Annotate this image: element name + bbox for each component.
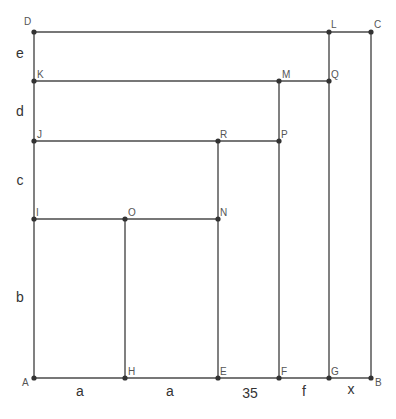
geometry-diagram: ADCBHEFGLKMQJRPION aa35fxedcb: [0, 0, 396, 419]
point-label-e: E: [220, 366, 227, 377]
point-d: [31, 29, 36, 34]
points-layer: [31, 29, 373, 380]
point-j: [31, 138, 36, 143]
length-label: e: [16, 45, 24, 61]
point-label-d: D: [24, 16, 31, 27]
point-label-q: Q: [331, 69, 339, 80]
length-label: f: [302, 383, 306, 399]
segments-layer: [34, 32, 371, 378]
point-b: [368, 375, 373, 380]
point-a: [31, 375, 36, 380]
point-h: [122, 375, 127, 380]
point-label-c: C: [374, 19, 381, 30]
point-label-r: R: [220, 129, 227, 140]
point-l: [326, 29, 331, 34]
segment-labels-layer: aa35fxedcb: [16, 45, 354, 401]
point-label-i: I: [36, 207, 39, 218]
point-label-k: K: [37, 69, 44, 80]
length-label: x: [348, 381, 355, 397]
point-label-h: H: [128, 366, 135, 377]
point-label-m: M: [282, 69, 290, 80]
point-o: [122, 216, 127, 221]
point-label-b: B: [375, 377, 382, 388]
length-label: a: [166, 383, 174, 399]
point-label-a: A: [22, 377, 29, 388]
point-label-o: O: [128, 207, 136, 218]
point-m: [276, 78, 281, 83]
length-label: b: [16, 289, 24, 305]
length-label: c: [17, 172, 24, 188]
length-label: a: [76, 383, 84, 399]
point-label-f: F: [281, 366, 287, 377]
point-c: [368, 29, 373, 34]
point-label-g: G: [331, 366, 339, 377]
point-label-l: L: [331, 19, 337, 30]
length-label: 35: [242, 385, 258, 401]
point-label-j: J: [37, 129, 42, 140]
length-label: d: [16, 103, 24, 119]
point-label-n: N: [220, 207, 227, 218]
point-label-p: P: [281, 129, 288, 140]
point-k: [31, 78, 36, 83]
point-labels-layer: ADCBHEFGLKMQJRPION: [22, 16, 382, 388]
